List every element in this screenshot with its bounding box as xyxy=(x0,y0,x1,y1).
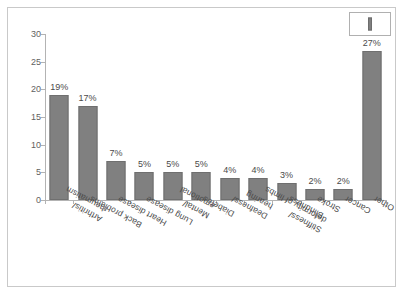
legend-bar-swatch-icon xyxy=(368,18,372,31)
bar-slot: 7% xyxy=(102,34,130,200)
y-tick-label: 5 xyxy=(36,168,41,177)
bar-slot: 27% xyxy=(358,34,386,200)
bar-slot: 2% xyxy=(329,34,357,200)
y-tick-label: 15 xyxy=(31,113,41,122)
x-category-label-line: Other xyxy=(372,194,396,213)
bar[interactable] xyxy=(107,161,126,200)
bar-slot: 3% xyxy=(272,34,300,200)
plot-area: 051015202530 19%17%7%5%5%5%4%4%3%2%2%27% xyxy=(45,34,386,200)
bar-slot: 2% xyxy=(301,34,329,200)
bar-slot: 5% xyxy=(187,34,215,200)
bar-value-label: 19% xyxy=(50,83,68,92)
bar[interactable] xyxy=(78,106,97,200)
bar-slot: 4% xyxy=(244,34,272,200)
bar-slot: 17% xyxy=(73,34,101,200)
bar-value-label: 5% xyxy=(195,160,208,169)
bar-slot: 19% xyxy=(45,34,73,200)
bar-value-label: 4% xyxy=(223,166,236,175)
y-tick-label: 30 xyxy=(31,30,41,39)
bar-value-label: 5% xyxy=(166,160,179,169)
y-tick-label: 20 xyxy=(31,85,41,94)
bar-value-label: 17% xyxy=(79,94,97,103)
bar-slot: 4% xyxy=(216,34,244,200)
bar-slot: 5% xyxy=(130,34,158,200)
bar[interactable] xyxy=(362,51,381,200)
bar-value-label: 5% xyxy=(138,160,151,169)
chart-figure: 051015202530 19%17%7%5%5%5%4%4%3%2%2%27%… xyxy=(7,7,396,287)
bar-value-label: 2% xyxy=(337,177,350,186)
bar-value-label: 3% xyxy=(280,171,293,180)
legend-box xyxy=(349,12,391,36)
bar-slot: 5% xyxy=(159,34,187,200)
y-tick-label: 0 xyxy=(36,196,41,205)
bar-value-label: 27% xyxy=(363,39,381,48)
bar-value-label: 4% xyxy=(252,166,265,175)
bar-value-label: 2% xyxy=(308,177,321,186)
bar[interactable] xyxy=(50,95,69,200)
bar-value-label: 7% xyxy=(110,149,123,158)
y-tick-label: 25 xyxy=(31,57,41,66)
x-axis-category-labels: Arthritis/rheumatismBack problemsHeart d… xyxy=(45,203,386,293)
x-category-label: Other xyxy=(372,194,396,213)
y-tick-label: 10 xyxy=(31,140,41,149)
